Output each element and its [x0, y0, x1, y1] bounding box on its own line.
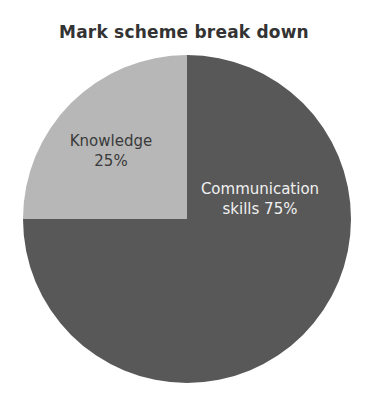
communication-percent: skills 75% [188, 199, 332, 219]
communication-name: Communication [188, 179, 332, 199]
knowledge-name: Knowledge [48, 131, 174, 151]
slice-label-communication: Communication skills 75% [188, 179, 332, 219]
slice-label-knowledge: Knowledge 25% [48, 131, 174, 171]
knowledge-percent: 25% [48, 151, 174, 171]
